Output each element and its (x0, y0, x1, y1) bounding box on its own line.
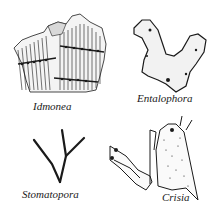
entalophora-drawing (134, 20, 206, 92)
label-crisia: Crisia (162, 191, 190, 203)
label-idmonea: Idmonea (33, 100, 72, 112)
label-entalophora: Entalophora (137, 92, 193, 104)
crisia-drawing (110, 116, 198, 200)
label-stomatopora: Stomatopora (22, 188, 79, 200)
stomatopora-drawing (34, 130, 84, 182)
idmonea-drawing (14, 14, 106, 92)
